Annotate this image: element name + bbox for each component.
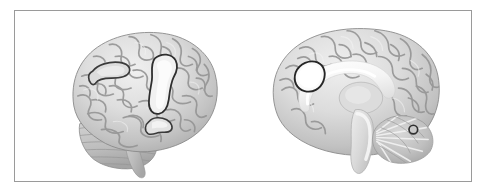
- brain-figure: brain-surface-rendering lateral medial: [0, 0, 488, 196]
- cluster-cerebellar-dot: [409, 125, 418, 134]
- thalamus: [339, 82, 382, 114]
- medial-view-render: [251, 11, 461, 181]
- cluster-supramarginal: [145, 118, 172, 135]
- figure-frame-border: [14, 10, 472, 182]
- cerebral-cortex-lateral: [73, 32, 217, 151]
- cluster-anterior-cingulate: [295, 61, 325, 91]
- brain-panel-medial: [251, 11, 461, 181]
- brainstem-medial: [351, 109, 374, 173]
- lateral-view-render: [43, 11, 243, 181]
- brain-panel-lateral: [43, 11, 243, 181]
